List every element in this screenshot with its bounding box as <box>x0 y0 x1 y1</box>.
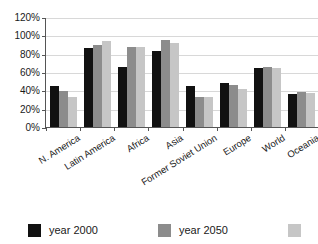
x-axis-category-label: Oceania <box>285 132 318 160</box>
x-axis-category-label: Europe <box>221 132 253 158</box>
bar <box>118 67 127 127</box>
bar <box>297 92 306 127</box>
bar-group <box>251 18 285 127</box>
x-axis-tick <box>114 127 115 131</box>
y-axis-tick-label: 60% <box>20 68 40 78</box>
x-axis-tick <box>148 127 149 131</box>
bar <box>68 97 77 127</box>
x-axis-tick <box>251 127 252 131</box>
bar <box>161 40 170 127</box>
legend-swatch-icon <box>158 224 171 237</box>
bar <box>50 86 59 127</box>
bar <box>288 94 297 127</box>
bar <box>254 68 263 127</box>
y-axis-tick-label: 100% <box>14 31 40 41</box>
bar-group <box>114 18 148 127</box>
bar <box>186 86 195 127</box>
bar <box>59 91 68 127</box>
bar <box>136 47 145 127</box>
y-axis-tick-label: 20% <box>20 105 40 115</box>
y-axis-tick-label: 0% <box>26 123 40 133</box>
bar-group <box>183 18 217 127</box>
bar <box>272 68 281 127</box>
y-axis-tick-label: 120% <box>14 13 40 23</box>
bar <box>127 47 136 127</box>
bar <box>238 89 247 127</box>
x-axis-labels: N. AmericaLatin AmericaAfricaAsiaFormer … <box>45 132 318 194</box>
x-axis-tick <box>46 127 47 131</box>
chart-legend: year 2000year 2050 <box>28 224 318 240</box>
legend-item[interactable] <box>288 224 301 237</box>
x-axis-tick <box>285 127 286 131</box>
bar-chart: 0%20%40%60%80%100%120% N. AmericaLatin A… <box>0 0 318 244</box>
bar-series-layer <box>46 18 318 127</box>
bar-group <box>46 18 80 127</box>
bar <box>102 41 111 127</box>
bar <box>84 48 93 127</box>
x-axis-tick <box>183 127 184 131</box>
legend-swatch-icon <box>288 224 301 237</box>
bar-group <box>80 18 114 127</box>
bar <box>204 97 213 127</box>
bar-group <box>285 18 318 127</box>
bar <box>220 83 229 127</box>
x-axis-tick <box>80 127 81 131</box>
x-axis-category-label: Asia <box>163 132 185 151</box>
y-axis-tick-label: 80% <box>20 50 40 60</box>
legend-label: year 2000 <box>49 224 98 237</box>
bar <box>152 51 161 127</box>
bar <box>263 67 272 128</box>
legend-item[interactable]: year 2000 <box>28 224 98 237</box>
bar <box>93 45 102 128</box>
bar <box>195 97 204 127</box>
legend-item[interactable]: year 2050 <box>158 224 228 237</box>
legend-swatch-icon <box>28 224 41 237</box>
x-axis-category-label: Africa <box>124 132 150 154</box>
bar-group <box>217 18 251 127</box>
bar <box>170 43 179 127</box>
bar-group <box>148 18 182 127</box>
bar <box>229 85 238 127</box>
y-axis-tick-label: 40% <box>20 86 40 96</box>
x-axis-tick <box>217 127 218 131</box>
legend-label: year 2050 <box>179 224 228 237</box>
bar <box>306 93 315 127</box>
x-axis-category-label: World <box>260 132 287 154</box>
plot-area: 0%20%40%60%80%100%120% <box>45 18 318 128</box>
